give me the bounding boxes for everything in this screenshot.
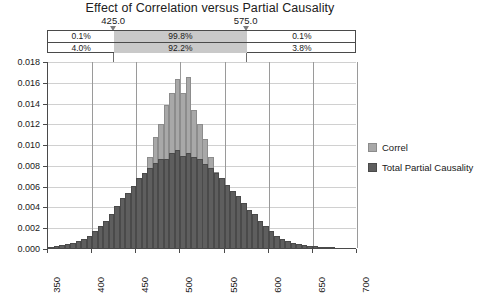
y-tick-mark (43, 83, 47, 84)
percent-left-tpc: 4.0% (48, 43, 114, 53)
y-tick-mark (43, 104, 47, 105)
percent-middle-tpc: 92.2% (114, 43, 246, 53)
gridline-horizontal (48, 104, 356, 105)
y-tick-label: 0.006 (2, 182, 40, 192)
x-tick-label: 700 (360, 277, 371, 293)
y-tick-mark (43, 145, 47, 146)
gridline-vertical (313, 62, 314, 248)
x-tick-label: 550 (228, 277, 239, 293)
x-tick-mark (179, 249, 180, 253)
x-tick-label: 600 (272, 277, 283, 293)
legend-label-tpc: Total Partial Causality (382, 162, 473, 173)
y-tick-label: 0.014 (2, 99, 40, 109)
x-tick-label: 500 (183, 277, 194, 293)
y-tick-mark (43, 228, 47, 229)
y-tick-mark (43, 207, 47, 208)
threshold-label: 425.0 (101, 15, 125, 26)
x-tick-mark (356, 249, 357, 253)
percent-left-correl: 0.1% (48, 31, 114, 42)
percent-middle-correl: 99.8% (114, 31, 246, 42)
gridline-horizontal (48, 62, 356, 63)
y-tick-label: 0.010 (2, 140, 40, 150)
x-tick-label: 450 (139, 277, 150, 293)
x-tick-mark (268, 249, 269, 253)
percent-right-correl: 0.1% (247, 31, 357, 42)
gridline-horizontal (48, 83, 356, 84)
chart-title: Effect of Correlation versus Partial Cau… (0, 1, 420, 15)
y-tick-label: 0.004 (2, 202, 40, 212)
y-tick-label: 0.002 (2, 223, 40, 233)
legend-item-correl: Correl (368, 142, 473, 153)
percent-row-total-partial-causality: 4.0% 92.2% 3.8% (48, 42, 355, 53)
x-tick-mark (135, 249, 136, 253)
x-tick-mark (312, 249, 313, 253)
legend-label-correl: Correl (382, 142, 408, 153)
histogram-bar (329, 247, 335, 248)
y-tick-label: 0.018 (2, 57, 40, 67)
x-tick-mark (224, 249, 225, 253)
legend-swatch-icon-tpc (368, 163, 377, 172)
x-tick-mark (91, 249, 92, 253)
y-tick-label: 0.008 (2, 161, 40, 171)
x-tick-label: 350 (51, 277, 62, 293)
percent-right-tpc: 3.8% (247, 43, 357, 53)
gridline-vertical (269, 62, 270, 248)
threshold-label: 575.0 (234, 15, 258, 26)
legend-swatch-icon-correl (368, 143, 377, 152)
plot-area (47, 62, 356, 249)
y-tick-mark (43, 187, 47, 188)
y-tick-mark (43, 124, 47, 125)
gridline-vertical (357, 62, 358, 248)
y-tick-label: 0.012 (2, 119, 40, 129)
y-tick-mark (43, 62, 47, 63)
chart-legend: Correl Total Partial Causality (368, 142, 473, 182)
percent-row-correl: 0.1% 99.8% 0.1% (48, 31, 355, 42)
x-tick-label: 650 (316, 277, 327, 293)
x-tick-mark (47, 249, 48, 253)
percent-summary-table: 0.1% 99.8% 0.1% 4.0% 92.2% 3.8% (47, 30, 356, 53)
legend-item-total-partial-causality: Total Partial Causality (368, 162, 473, 173)
x-tick-label: 400 (95, 277, 106, 293)
gridline-vertical (92, 62, 93, 248)
y-tick-label: 0.000 (2, 244, 40, 254)
y-tick-label: 0.016 (2, 78, 40, 88)
y-tick-mark (43, 166, 47, 167)
